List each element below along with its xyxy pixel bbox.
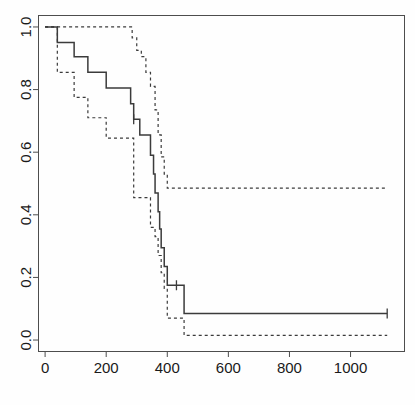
x-tick-label: 400 (155, 359, 180, 376)
upper-confidence-limit-curve (45, 27, 387, 188)
x-tick-label: 200 (94, 359, 119, 376)
km-survival-chart-canvas: 0.00.20.40.60.81.0 02004006008001000 (0, 0, 415, 405)
y-tick-label: 0.8 (18, 79, 35, 100)
plot-frame-box (39, 16, 405, 352)
x-tick-label: 600 (216, 359, 241, 376)
kaplan-meier-plot: 0.00.20.40.60.81.0 02004006008001000 (0, 0, 415, 405)
x-tick-label: 0 (41, 359, 49, 376)
survival-estimate-curve (45, 27, 387, 313)
survival-probability-axis: 0.00.20.40.60.81.0 (18, 17, 40, 351)
y-tick-label: 1.0 (18, 17, 35, 38)
y-tick-label: 0.6 (18, 142, 35, 163)
x-tick-label: 1000 (334, 359, 367, 376)
y-tick-label: 0.2 (18, 267, 35, 288)
time-axis: 02004006008001000 (41, 351, 367, 376)
y-tick-label: 0.4 (18, 204, 35, 225)
y-tick-label: 0.0 (18, 330, 35, 351)
censor-marks-group (134, 114, 388, 318)
lower-confidence-limit-curve (45, 27, 387, 335)
x-tick-label: 800 (277, 359, 302, 376)
